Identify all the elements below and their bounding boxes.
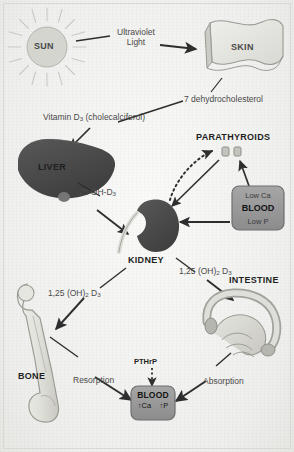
ureter: [119, 213, 137, 252]
diagram-canvas: SUN Ultraviolet Light SKIN 7 dehydrochol…: [0, 0, 294, 452]
arrow-kidney-to-label-bone: [100, 268, 126, 288]
kidney-icon: [119, 200, 179, 252]
femur-bone-icon: [17, 284, 58, 422]
arrow-dehydro-to-vitd3: [118, 101, 183, 122]
blood-box: [131, 386, 175, 420]
diagram-artwork: [0, 0, 294, 452]
arrow-parathyroid-to-kidney: [172, 160, 219, 206]
skin-sheet-icon: [205, 19, 283, 70]
arrow-sun-to-label: [76, 36, 110, 41]
sun-icon: [8, 8, 86, 86]
arrow-bone-to-resorption: [50, 337, 78, 357]
arrow-calcitriol-to-bone: [56, 298, 84, 329]
gallbladder: [58, 192, 70, 202]
arrow-absorption-to-blood: [176, 381, 206, 401]
arrow-uv-to-skin: [160, 45, 196, 49]
arrow-resorption-to-blood: [95, 377, 131, 400]
arrow-skin-to-dehydro: [211, 78, 222, 92]
intestine-icon: [205, 293, 277, 357]
arrow-lowblood-to-parathyroid: [240, 161, 249, 186]
arrow-intestine-to-absorption: [216, 353, 231, 366]
low-blood-box: [232, 186, 284, 230]
parathyroid-glands-icon: [222, 147, 241, 156]
arrow-feedback-dotted: [170, 151, 212, 200]
arrow-kidney-to-label-intestine: [176, 258, 195, 272]
liver-icon: [18, 139, 115, 202]
